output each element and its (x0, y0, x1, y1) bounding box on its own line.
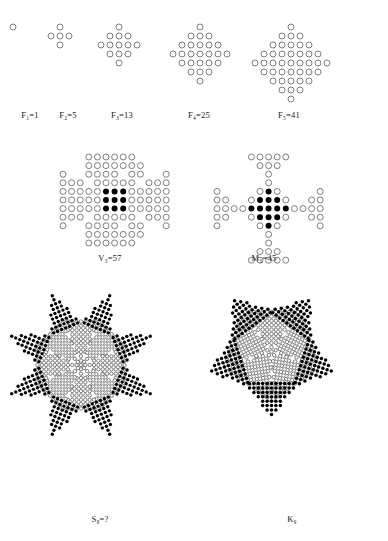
label-M3: M₃=45 (212, 253, 316, 263)
figure-F2 (46, 22, 74, 50)
figure-F3 (96, 22, 142, 68)
figure-M3 (212, 152, 325, 265)
label-S8: S₈=? (48, 514, 152, 524)
figure-F5 (250, 22, 332, 104)
label-F5: F₅=41 (250, 110, 328, 120)
figure-F4 (168, 22, 232, 86)
label-K9: K₉ (240, 514, 344, 524)
label-F3: F₃=13 (96, 110, 148, 120)
diagram-canvas: F₁=1 F₂=5 F₃=13 F₄=25 F₅=41 V₃=57 M₃=45 … (0, 0, 388, 541)
label-F2: F₂=5 (46, 110, 90, 120)
label-V3: V₃=57 (58, 253, 162, 263)
figure-V3 (58, 152, 171, 248)
figure-K9 (208, 297, 335, 418)
label-F4: F₄=25 (168, 110, 230, 120)
figure-F1 (8, 22, 18, 32)
figure-S8 (8, 292, 154, 438)
